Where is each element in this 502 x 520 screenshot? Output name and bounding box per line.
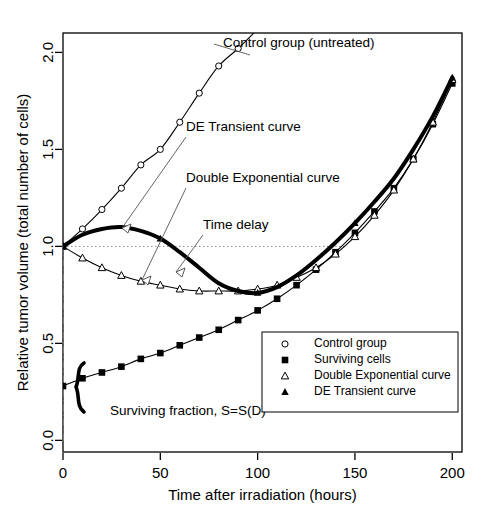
marker-open-circle [157,146,163,152]
marker-open-triangle [98,264,105,271]
x-tick-label: 50 [152,464,169,481]
marker-open-circle [99,206,105,212]
marker-open-circle [177,119,183,125]
marker-open-circle [118,185,124,191]
marker-open-circle [196,90,202,96]
x-tick-label: 100 [245,464,270,481]
y-tick-label: 2.0 [39,42,56,63]
series-control-group [60,26,261,249]
marker-filled-square [176,342,183,349]
y-tick-label: 0.0 [39,430,56,451]
annotation-time-delay: Time delay [203,217,269,232]
marker-filled-square [138,356,145,363]
x-tick-label: 150 [342,464,367,481]
leader-line [122,137,186,228]
legend-item-label: Surviving cells [314,352,391,366]
series-line [63,29,258,246]
marker-filled-square [60,383,67,390]
annotation-control-group-untreated: Control group (untreated) [223,35,375,50]
marker-open-circle [138,162,144,168]
annotation-surviving-fraction-s-s-d: Surviving fraction, S=S(D) [110,403,266,418]
x-axis [63,453,452,460]
annotation-de-transient-curve: DE Transient curve [186,119,301,134]
marker-open-circle [255,26,261,32]
legend-item-label: DE Transient curve [314,384,416,398]
marker-filled-square [274,295,281,302]
marker-open-circle [282,341,288,347]
chart-svg: 0501001502000.00.51.01.52.0Time after ir… [0,0,502,520]
marker-filled-square [254,307,261,314]
annotation-double-exponential-curve: Double Exponential curve [186,170,340,185]
marker-open-circle [79,226,85,232]
y-tick-label: 1.5 [39,139,56,160]
surviving-fraction-brace [76,363,84,412]
marker-filled-square [79,375,86,382]
marker-filled-square [293,282,300,289]
legend: Control groupSurviving cellsDouble Expon… [262,332,458,412]
marker-open-circle [216,63,222,69]
y-tick-label: 1.0 [39,236,56,257]
marker-filled-triangle [449,74,456,81]
marker-filled-square [235,317,242,324]
x-tick-label: 0 [59,464,67,481]
y-tick-label: 0.5 [39,333,56,354]
marker-filled-square [118,363,125,370]
marker-filled-square [157,350,164,357]
legend-item-label: Double Exponential curve [314,368,451,382]
marker-filled-square [215,326,222,333]
x-tick-label: 200 [440,464,465,481]
marker-open-triangle [79,254,86,261]
marker-filled-square [282,357,289,364]
marker-filled-square [99,369,106,376]
leader-arrowhead [176,268,185,277]
marker-filled-square [196,334,203,341]
chart-figure: 0501001502000.00.51.01.52.0Time after ir… [0,0,502,520]
y-axis [55,52,62,440]
x-axis-title: Time after irradiation (hours) [168,486,357,503]
y-axis-title: Relative tumor volume (total number of c… [14,94,31,392]
legend-item-label: Control group [314,336,387,350]
